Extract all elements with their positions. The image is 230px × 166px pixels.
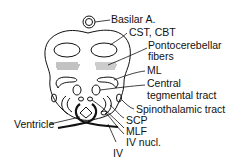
leader-ctt [100, 85, 145, 90]
basilar-artery-inner [86, 19, 93, 26]
label-ventricle: Ventricle [14, 118, 54, 130]
label-ctt-2: tegmental tract [147, 89, 217, 101]
label-ml: ML [147, 64, 162, 76]
pontocerebellar-right [95, 63, 117, 69]
label-pontocerebellar-2: fibers [148, 50, 174, 62]
leader-ml [114, 71, 145, 80]
leader-ponto [108, 48, 147, 65]
pons-outline [45, 30, 130, 120]
pontocerebellar-left [56, 63, 80, 69]
ml-right [97, 77, 118, 88]
leader-cst [110, 33, 127, 45]
label-cst-cbt: CST, CBT [129, 26, 176, 38]
scp-left [62, 96, 72, 114]
label-basilar-artery: Basilar A. [111, 13, 155, 25]
label-ctt-1: Central [147, 77, 181, 89]
ctt-left [73, 85, 81, 95]
leader-basilar [95, 20, 110, 22]
leader-stt [122, 100, 134, 109]
pons-diagram: Basilar A. CST, CBT Pontocerebellar fibe… [0, 0, 230, 166]
ventricle [80, 107, 92, 118]
ctt-right [92, 85, 100, 95]
label-spinothalamic: Spinothalamic tract [136, 103, 225, 115]
basilar-artery-outer [83, 16, 95, 28]
mlf-right [88, 97, 93, 101]
label-iv: IV [113, 147, 123, 159]
cst-right [91, 43, 117, 57]
leader-ventricle [50, 117, 80, 124]
label-iv-nucleus: IV nucl. [126, 136, 161, 148]
leader-ivn [107, 114, 124, 134]
cst-left [54, 43, 80, 57]
mlf-left [79, 97, 84, 101]
